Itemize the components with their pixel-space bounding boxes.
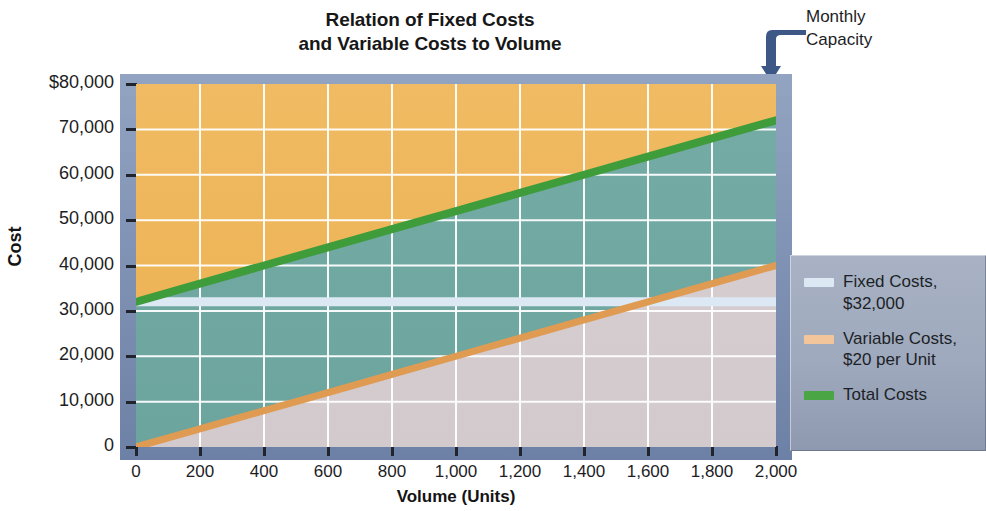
legend-variable-costs[interactable]: Variable Costs,$20 per Unit (804, 328, 986, 372)
x-tick-mark (391, 446, 394, 456)
y-axis-tick-label: 0 (18, 435, 114, 456)
monthly-capacity-label: Monthly Capacity (806, 6, 872, 52)
legend-swatch (804, 335, 834, 344)
y-axis-tick-label: 50,000 (18, 208, 114, 229)
legend-label-line-2: $32,000 (843, 293, 937, 315)
x-tick-mark (711, 446, 714, 456)
x-tick-mark (263, 446, 266, 456)
x-tick-mark (135, 446, 138, 456)
x-tick-mark (583, 446, 586, 456)
x-tick-mark (455, 446, 458, 456)
x-tick-mark (775, 446, 778, 456)
x-tick-mark (327, 446, 330, 456)
capacity-line-1: Monthly (806, 6, 872, 29)
y-axis-tick-label: 70,000 (18, 117, 114, 138)
page-title: Relation of Fixed Costs and Variable Cos… (180, 8, 680, 57)
legend-label-line-2: $20 per Unit (843, 349, 957, 371)
legend-label-line-1: Fixed Costs, (843, 271, 937, 293)
legend-swatch (804, 278, 834, 287)
y-axis-tick-label: 40,000 (18, 254, 114, 275)
legend-swatch (804, 391, 834, 400)
y-axis-labels: $80,00070,00060,00050,00040,00030,00020,… (14, 0, 114, 511)
y-axis-tick-label: 30,000 (18, 299, 114, 320)
legend-total-costs[interactable]: Total Costs (804, 384, 986, 406)
x-axis-title: Volume (Units) (136, 487, 776, 507)
chart-plot-frame (120, 74, 792, 460)
legend-fixed-costs[interactable]: Fixed Costs,$32,000 (804, 271, 986, 315)
legend-label-line-1: Variable Costs, (843, 328, 957, 350)
title-line-2: and Variable Costs to Volume (180, 32, 680, 56)
y-axis-title: Cost (5, 212, 26, 282)
x-tick-mark (199, 446, 202, 456)
capacity-line-2: Capacity (806, 29, 872, 52)
y-axis-tick-label: 10,000 (18, 390, 114, 411)
y-axis-tick-label: $80,000 (18, 72, 114, 93)
chart-legend: Fixed Costs,$32,000Variable Costs,$20 pe… (790, 255, 986, 451)
title-line-1: Relation of Fixed Costs (180, 8, 680, 32)
x-tick-mark (647, 446, 650, 456)
legend-label: Fixed Costs,$32,000 (843, 271, 937, 315)
legend-label: Total Costs (843, 384, 927, 406)
x-tick-mark (519, 446, 522, 456)
legend-label: Variable Costs,$20 per Unit (843, 328, 957, 372)
chart-svg (136, 84, 776, 447)
legend-label-line-1: Total Costs (843, 384, 927, 406)
x-axis-tick-label: 2,000 (736, 462, 816, 482)
plot-area (136, 84, 776, 447)
y-axis-tick-label: 60,000 (18, 163, 114, 184)
y-axis-tick-label: 20,000 (18, 344, 114, 365)
